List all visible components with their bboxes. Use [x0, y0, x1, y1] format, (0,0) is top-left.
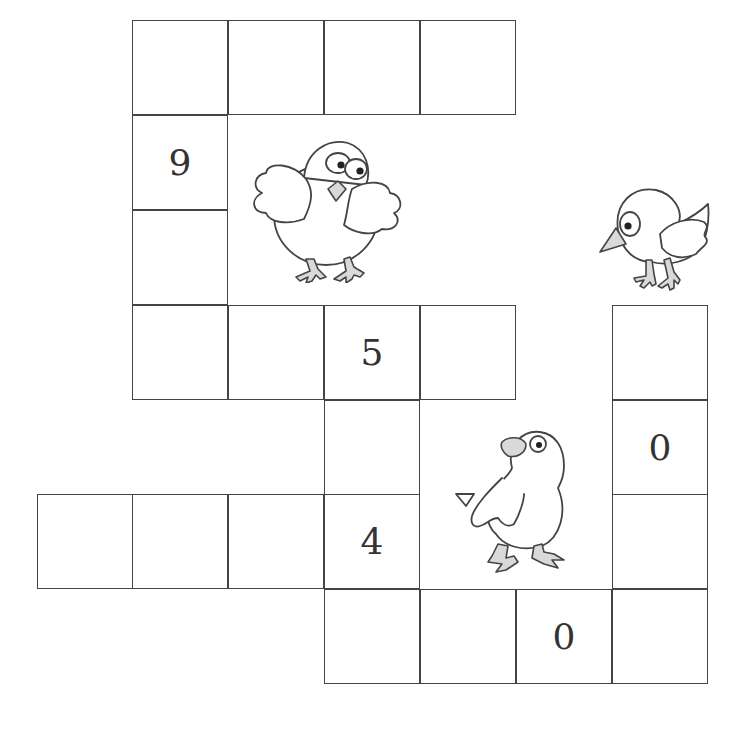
grid-cell-empty[interactable] — [228, 305, 324, 400]
grid-cell-empty[interactable] — [324, 400, 420, 495]
grid-cell-empty[interactable] — [612, 305, 708, 400]
grid-cell-empty[interactable] — [132, 20, 228, 115]
grid-cell-empty[interactable] — [228, 494, 324, 589]
grid-cell-given: 9 — [132, 115, 228, 210]
grid-cell-given: 0 — [516, 589, 612, 684]
grid-cell-given: 5 — [324, 305, 420, 400]
grid-cell-empty[interactable] — [612, 589, 708, 684]
grid-cell-empty[interactable] — [324, 589, 420, 684]
grid-cell-empty[interactable] — [37, 494, 133, 589]
grid-cell-empty[interactable] — [420, 20, 516, 115]
grid-cell-empty[interactable] — [228, 20, 324, 115]
grid-cell-empty[interactable] — [420, 305, 516, 400]
chick-looking-up-icon — [452, 428, 582, 578]
grid-cell-empty[interactable] — [132, 494, 228, 589]
grid-cell-empty[interactable] — [324, 20, 420, 115]
bird-pecking-icon — [578, 182, 718, 294]
chick-wings-spread-icon — [248, 133, 408, 283]
number-crossword-grid: 95040 — [0, 0, 738, 731]
grid-cell-empty[interactable] — [612, 494, 708, 589]
grid-cell-given: 4 — [324, 494, 420, 589]
grid-cell-empty[interactable] — [420, 589, 516, 684]
grid-cell-empty[interactable] — [132, 305, 228, 400]
grid-cell-empty[interactable] — [132, 210, 228, 305]
grid-cell-given: 0 — [612, 400, 708, 495]
